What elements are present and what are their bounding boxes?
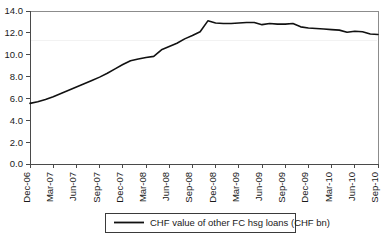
- x-tick-label: Mar-07: [44, 172, 55, 202]
- legend-label-series-1: CHF value of other FC hsg loans (CHF bn): [150, 217, 330, 228]
- y-tick-label: 4.0: [10, 115, 23, 126]
- x-tick-label: Jun-08: [160, 172, 171, 201]
- chart-container: 0.02.04.06.08.010.012.014.0 Dec-06Mar-07…: [0, 0, 387, 236]
- x-tick-label: Dec-07: [114, 172, 125, 203]
- y-tick-label: 6.0: [10, 93, 23, 104]
- y-tick-labels: 0.02.04.06.08.010.012.014.0: [5, 5, 24, 169]
- y-tick-label: 0.0: [10, 158, 23, 169]
- line-chart: 0.02.04.06.08.010.012.014.0 Dec-06Mar-07…: [0, 0, 387, 236]
- x-tick-label: Sep-08: [183, 172, 194, 203]
- plot-background: [30, 11, 378, 164]
- x-tick-label: Jun-09: [253, 172, 264, 201]
- x-tick-label: Jun-10: [346, 172, 357, 201]
- x-tick-label: Mar-09: [230, 172, 241, 202]
- chart-legend: CHF value of other FC hsg loans (CHF bn): [105, 213, 330, 232]
- y-tick-label: 14.0: [5, 5, 24, 16]
- y-tick-label: 10.0: [5, 49, 24, 60]
- x-tick-label: Mar-10: [323, 172, 334, 202]
- x-tick-labels: Dec-06Mar-07Jun-07Sep-07Dec-07Mar-08Jun-…: [21, 172, 380, 203]
- y-tick-marks: [26, 11, 30, 164]
- x-tick-marks: [30, 164, 378, 168]
- x-tick-label: Dec-08: [207, 172, 218, 203]
- y-tick-label: 12.0: [5, 27, 24, 38]
- x-tick-label: Sep-07: [91, 172, 102, 203]
- x-tick-label: Dec-06: [21, 172, 32, 203]
- x-tick-label: Jun-07: [67, 172, 78, 201]
- x-tick-label: Mar-08: [137, 172, 148, 202]
- y-tick-label: 2.0: [10, 137, 23, 148]
- x-tick-label: Sep-09: [276, 172, 287, 203]
- x-tick-label: Dec-09: [299, 172, 310, 203]
- y-tick-label: 8.0: [10, 71, 23, 82]
- x-tick-label: Sep-10: [369, 172, 380, 203]
